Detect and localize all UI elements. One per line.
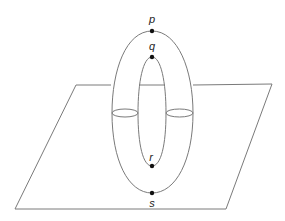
point-r <box>150 164 154 168</box>
plane-left-edge <box>15 85 76 209</box>
label-q: q <box>149 40 156 52</box>
torus-inner-outline <box>138 57 166 166</box>
cross-section-left <box>112 109 138 117</box>
plane-top-edge-right <box>193 84 272 85</box>
point-q <box>150 55 154 59</box>
point-s <box>150 191 154 195</box>
plane-right-edge <box>226 84 272 209</box>
torus-plane-diagram: p q r s <box>0 0 285 221</box>
label-s: s <box>149 197 155 209</box>
label-p: p <box>148 13 155 25</box>
cross-section-right <box>166 109 193 117</box>
plane <box>15 84 272 209</box>
point-p <box>150 29 154 33</box>
label-r: r <box>149 151 154 163</box>
labels: p q r s <box>148 13 156 209</box>
points <box>150 29 154 195</box>
